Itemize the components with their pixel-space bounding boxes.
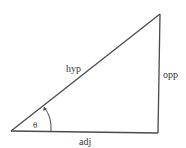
triangle-diagram: hyp opp adj θ <box>0 0 186 148</box>
hypotenuse-side <box>11 14 160 131</box>
angle-arc <box>44 107 51 131</box>
adjacent-side <box>11 131 158 133</box>
opposite-label: opp <box>163 69 178 80</box>
hypotenuse-label: hyp <box>66 63 81 74</box>
angle-label: θ <box>33 120 37 130</box>
opposite-side <box>158 14 160 133</box>
triangle <box>11 14 160 133</box>
adjacent-label: adj <box>79 136 91 147</box>
